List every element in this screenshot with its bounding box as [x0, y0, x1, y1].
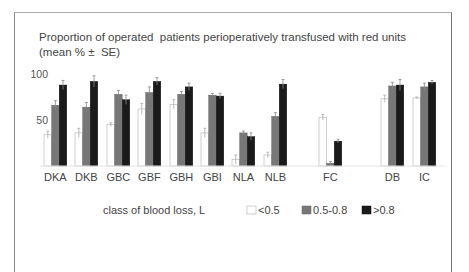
legend-swatch: [302, 206, 311, 214]
bar: [170, 104, 178, 166]
bar: [421, 87, 429, 166]
legend-swatch: [247, 206, 256, 214]
x-tick-label: GBH: [169, 171, 193, 183]
bar: [44, 135, 52, 166]
x-tick-label: IC: [419, 171, 430, 183]
x-tick-label: GBC: [106, 171, 130, 183]
bar-group-db: [381, 80, 404, 166]
x-tick-label: DKB: [75, 171, 98, 183]
bar-group-gbc: [107, 91, 130, 166]
bar-group-fc: [319, 114, 342, 166]
bar: [389, 86, 397, 166]
bar: [146, 92, 154, 166]
bar: [428, 82, 436, 166]
bar: [201, 133, 209, 166]
x-tick-label: NLA: [233, 171, 255, 183]
bar-group-nlb: [264, 80, 287, 166]
x-tick-label: FC: [323, 171, 338, 183]
legend: class of blood loss, L <0.50.5-0.8>0.8: [103, 204, 395, 216]
bar-group-gbf: [138, 78, 161, 166]
bar: [247, 137, 255, 166]
legend-title: class of blood loss, L: [103, 204, 205, 216]
bar: [185, 87, 193, 166]
y-axis-ticks: 50100: [30, 68, 48, 126]
x-tick-label: DB: [385, 171, 400, 183]
bar: [153, 81, 161, 166]
bar: [90, 81, 98, 166]
bar: [413, 98, 421, 166]
y-tick-label: 50: [36, 114, 48, 126]
bar: [396, 85, 404, 166]
bar: [334, 141, 342, 166]
bars: [44, 76, 436, 166]
bar: [52, 105, 60, 166]
bar: [59, 85, 67, 166]
y-tick-label: 100: [30, 68, 48, 80]
bar: [115, 94, 123, 166]
bar: [279, 84, 287, 166]
bar: [122, 100, 130, 166]
bar: [83, 107, 91, 166]
bar-group-dkb: [75, 76, 98, 166]
x-tick-label: DKA: [44, 171, 67, 183]
bar-group-ic: [413, 80, 436, 166]
x-tick-label: NLB: [265, 171, 286, 183]
bar: [209, 95, 217, 166]
bar: [216, 96, 224, 166]
x-tick-label: GBF: [138, 171, 161, 183]
bar: [319, 117, 327, 166]
bar-group-gbh: [170, 83, 193, 166]
x-axis-labels: DKADKBGBCGBFGBHGBINLANLBFCDBIC: [44, 171, 430, 183]
legend-label: >0.8: [373, 204, 395, 216]
legend-label: <0.5: [258, 204, 280, 216]
bar: [138, 109, 146, 166]
bar: [178, 94, 186, 166]
bar: [272, 116, 280, 166]
legend-label: 0.5-0.8: [313, 204, 347, 216]
bar: [75, 133, 83, 166]
bar: [381, 99, 389, 166]
x-tick-label: GBI: [203, 171, 222, 183]
bar: [107, 125, 115, 166]
legend-swatch: [362, 206, 371, 214]
bar: [240, 133, 248, 166]
bar-group-nla: [232, 131, 255, 166]
bar-group-gbi: [201, 93, 224, 166]
